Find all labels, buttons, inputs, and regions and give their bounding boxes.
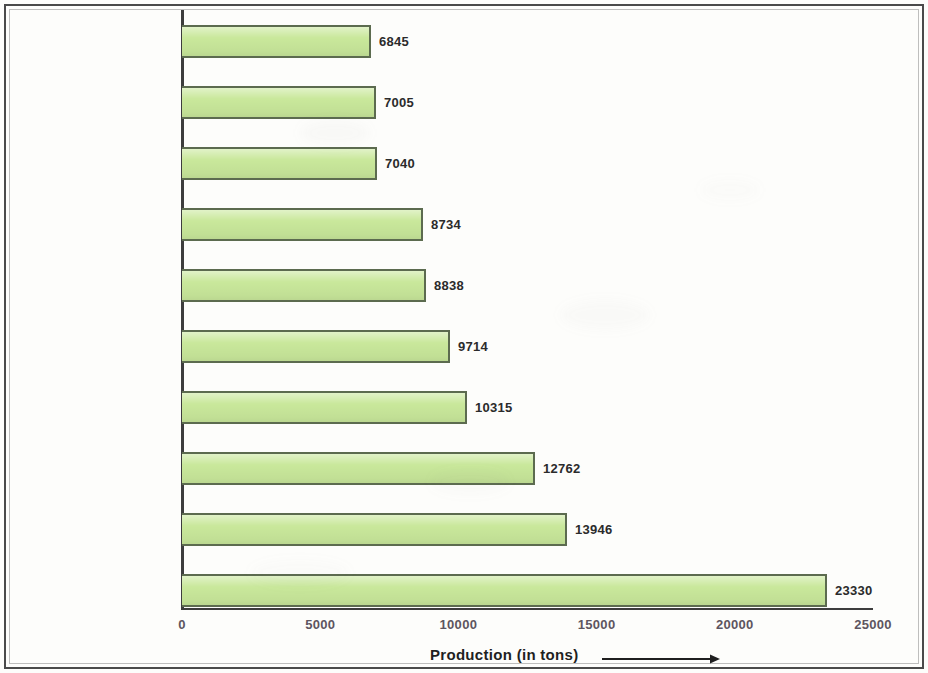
bar: [182, 269, 426, 302]
bar: [182, 25, 371, 58]
bar-value-label: 23330: [835, 574, 873, 607]
bar-value-label: 10315: [475, 391, 513, 424]
bar-value-label: 7005: [384, 86, 414, 119]
x-axis-title: Production (in tons): [430, 645, 578, 665]
x-axis-line: [181, 608, 873, 610]
x-axis-title-group: Production (in tons): [0, 645, 928, 669]
bar: [182, 452, 535, 485]
bar: [182, 513, 567, 546]
bar: [182, 574, 827, 607]
bar-value-label: 12762: [543, 452, 581, 485]
bar-value-label: 7040: [385, 147, 415, 180]
right-arrow-icon: [602, 654, 720, 664]
bar: [182, 147, 377, 180]
x-tick-label: 0: [178, 617, 186, 632]
bar-value-label: 9714: [458, 330, 488, 363]
x-tick-label: 15000: [578, 617, 616, 632]
bar-value-label: 13946: [575, 513, 613, 546]
bar: [182, 86, 376, 119]
x-tick-label: 20000: [716, 617, 754, 632]
chart-page: Bihar6845Tamil Nadu7005Haryana7040Mahara…: [0, 0, 928, 673]
bar-value-label: 8838: [434, 269, 464, 302]
x-tick-label: 5000: [305, 617, 335, 632]
bar: [182, 208, 423, 241]
bar-value-label: 8734: [431, 208, 461, 241]
bar: [182, 330, 450, 363]
x-tick-label: 10000: [440, 617, 478, 632]
bar: [182, 391, 467, 424]
x-tick-label: 25000: [854, 617, 892, 632]
bar-chart-plot-area: Bihar6845Tamil Nadu7005Haryana7040Mahara…: [0, 0, 928, 673]
bar-value-label: 6845: [379, 25, 409, 58]
